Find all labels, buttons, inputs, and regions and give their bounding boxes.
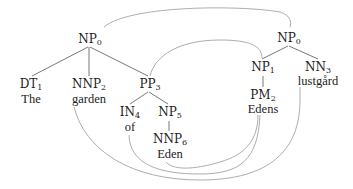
node-tag: NN [305, 60, 326, 74]
edge-tnp0-np1 [262, 46, 288, 59]
node-nn3: NN3 [305, 60, 331, 74]
node-tag: IN [120, 105, 135, 119]
word-of: of [125, 120, 135, 134]
node-dt1: DT1 [20, 77, 43, 91]
node-index: 6 [182, 138, 187, 147]
node-pp3: PP3 [139, 77, 160, 91]
node-tag: DT [20, 77, 38, 91]
node-index: 3 [156, 83, 161, 92]
edge-pp3-in4 [130, 92, 148, 104]
align-np0-np0 [104, 8, 291, 27]
edge-np0-dt1 [32, 47, 88, 76]
node-tag: PM [250, 88, 270, 102]
word-the: The [21, 92, 40, 106]
node-tag: PP [139, 77, 155, 91]
word-lustgard: lustgård [298, 74, 338, 88]
word-garden: garden [72, 92, 106, 106]
tree-alignment-diagram: NP0 DT1 NNP2 PP3 The garden IN4 NP5 of N… [0, 0, 353, 189]
node-tag: NP [78, 32, 97, 46]
node-np0-target: NP0 [277, 31, 301, 45]
node-index: 1 [270, 66, 275, 75]
align-of-edens [129, 115, 260, 174]
node-index: 2 [101, 83, 106, 92]
node-np1: NP1 [251, 60, 275, 74]
node-pm2: PM2 [250, 88, 275, 102]
node-nnp2: NNP2 [72, 77, 106, 91]
node-index: 5 [177, 111, 182, 120]
node-nnp6: NNP6 [153, 132, 187, 146]
node-index: 1 [37, 83, 42, 92]
edge-pp3-np5 [149, 92, 168, 104]
node-tag: NNP [72, 77, 101, 91]
node-index: 4 [135, 111, 140, 120]
node-tag: NP [158, 105, 177, 119]
node-tag: NP [277, 31, 296, 45]
align-pp3-np1 [150, 40, 262, 76]
node-tag: NP [251, 60, 270, 74]
node-index: 0 [97, 38, 102, 47]
word-eden: Eden [157, 147, 183, 161]
edge-tnp0-nn3 [289, 46, 318, 59]
node-in4: IN4 [120, 105, 140, 119]
word-edens: Edens [248, 102, 279, 116]
node-np5: NP5 [158, 105, 182, 119]
node-np0-source: NP0 [78, 32, 102, 46]
node-tag: NNP [153, 132, 182, 146]
edge-np0-pp3 [90, 47, 148, 76]
node-index: 0 [296, 37, 301, 46]
